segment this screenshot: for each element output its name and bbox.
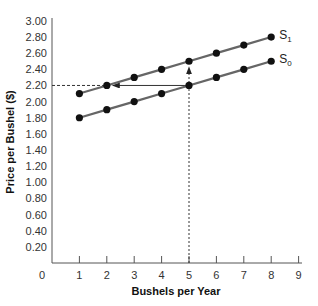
y-tick-label: 2.60	[26, 47, 47, 59]
data-point	[76, 90, 83, 97]
y-tick-label: 2.40	[26, 63, 47, 75]
series-labels: S0S1	[279, 28, 292, 68]
y-tick-label: 1.80	[26, 112, 47, 124]
y-axis-tick-labels: 0.200.400.600.801.001.201.401.601.802.00…	[26, 15, 47, 253]
data-point	[213, 50, 220, 57]
x-tick-label: 9	[296, 269, 302, 281]
annotations	[52, 67, 189, 263]
data-point	[103, 82, 110, 89]
data-point	[268, 33, 275, 40]
y-tick-label: 2.00	[26, 96, 47, 108]
y-tick-label: 0.20	[26, 241, 47, 253]
x-tick-label: 7	[241, 269, 247, 281]
x-tick-label: 8	[268, 269, 274, 281]
x-axis-title: Bushels per Year	[131, 285, 221, 297]
series-label-s0: S0	[279, 52, 292, 68]
data-point	[213, 74, 220, 81]
x-tick-label: 0	[39, 269, 45, 281]
supply-shift-chart: 0.200.400.600.801.001.201.401.601.802.00…	[0, 0, 318, 306]
y-tick-label: 1.40	[26, 144, 47, 156]
data-point	[76, 114, 83, 121]
series-label-s1: S1	[279, 28, 292, 44]
y-tick-label: 1.60	[26, 128, 47, 140]
data-point	[158, 90, 165, 97]
x-tick-label: 1	[76, 269, 82, 281]
y-axis-title: Price per Bushel ($)	[4, 90, 16, 194]
data-point	[185, 58, 192, 65]
x-tick-label: 3	[131, 269, 137, 281]
x-tick-label: 6	[213, 269, 219, 281]
data-point	[103, 106, 110, 113]
data-point	[158, 66, 165, 73]
y-tick-label: 1.20	[26, 160, 47, 172]
x-tick-label: 4	[159, 269, 165, 281]
data-point	[240, 66, 247, 73]
data-point	[131, 98, 138, 105]
data-point	[268, 58, 275, 65]
y-tick-label: 0.80	[26, 192, 47, 204]
y-tick-label: 2.80	[26, 31, 47, 43]
data-point	[240, 42, 247, 49]
y-tick-label: 1.00	[26, 176, 47, 188]
y-tick-label: 0.40	[26, 225, 47, 237]
data-point	[131, 74, 138, 81]
x-tick-label: 2	[104, 269, 110, 281]
x-tick-label: 5	[186, 269, 192, 281]
y-tick-label: 2.20	[26, 79, 47, 91]
x-axis-tick-labels: 0123456789	[39, 269, 302, 281]
y-tick-label: 3.00	[26, 15, 47, 27]
data-point	[185, 82, 192, 89]
series-group	[76, 33, 275, 121]
y-tick-label: 0.60	[26, 209, 47, 221]
